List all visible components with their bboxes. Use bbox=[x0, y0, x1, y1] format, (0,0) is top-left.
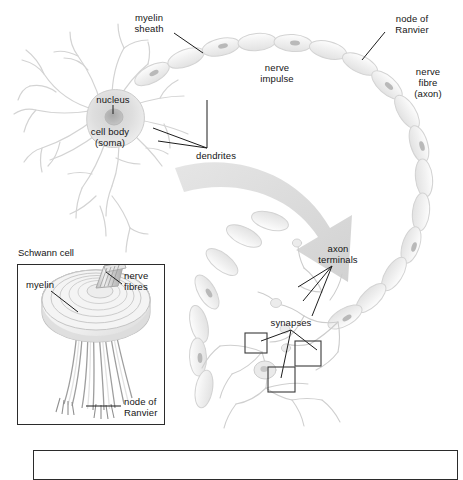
nucleus-shape bbox=[105, 109, 123, 125]
label-myelin-sheath: myelin sheath bbox=[134, 12, 163, 34]
synapse-boxes bbox=[245, 333, 321, 392]
label-cell-body-soma: cell body (soma) bbox=[91, 126, 129, 148]
label-synapses: synapses bbox=[271, 317, 312, 328]
myelinated-axon bbox=[131, 32, 434, 409]
leader-node-of-ranvier bbox=[362, 32, 385, 60]
leader-synapses-1 bbox=[261, 330, 291, 341]
label-axon-terminals: axon terminals bbox=[318, 243, 357, 265]
leader-dendrites-3 bbox=[158, 141, 207, 148]
leader-synapses-3 bbox=[281, 330, 291, 378]
label-inset-node-of-ranvier: node of Ranvier bbox=[124, 396, 157, 418]
label-nerve-fibre-axon: nerve fibre (axon) bbox=[414, 66, 442, 99]
label-nerve-impulse: nerve impulse bbox=[260, 62, 293, 84]
label-inset-nerve-fibres: nerve fibres bbox=[124, 270, 148, 292]
receiving-neuron-dendrites bbox=[202, 345, 340, 428]
leader-axon-terminals-1 bbox=[298, 266, 332, 287]
inset-title-schwann-cell: Schwann cell bbox=[18, 247, 74, 258]
label-nucleus: nucleus bbox=[96, 94, 129, 105]
label-inset-myelin: myelin bbox=[26, 279, 54, 290]
label-dendrites: dendrites bbox=[196, 150, 236, 161]
label-node-of-ranvier: node of Ranvier bbox=[395, 13, 428, 35]
caption-box bbox=[33, 450, 458, 480]
